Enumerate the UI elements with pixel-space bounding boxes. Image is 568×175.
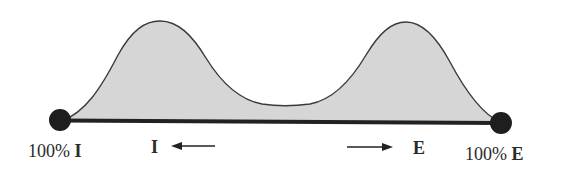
left-end-percent: 100% [28, 141, 70, 161]
continuum-axis [60, 121, 501, 124]
extraversion-endpoint [490, 112, 512, 134]
distribution-area [62, 21, 500, 122]
left-end-label: 100% I [28, 142, 82, 160]
left-direction-letter: I [151, 137, 158, 157]
introversion-endpoint [49, 109, 71, 131]
right-end-label: 100% E [465, 145, 524, 163]
right-end-percent: 100% [465, 144, 507, 164]
right-direction-letter: E [413, 138, 425, 158]
left-end-letter: I [75, 141, 82, 161]
left-direction-label: I [151, 138, 158, 156]
right-end-letter: E [512, 144, 524, 164]
left-arrow-icon [171, 142, 215, 150]
right-direction-label: E [413, 139, 425, 157]
right-arrow-icon [347, 143, 393, 151]
